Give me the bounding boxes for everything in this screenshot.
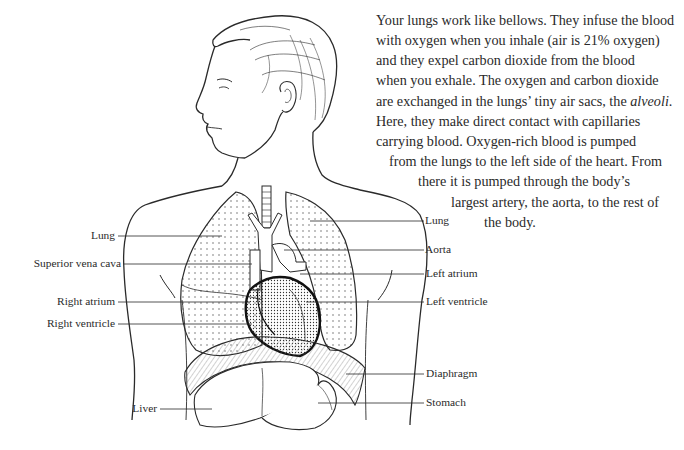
label-lung-left: Lung	[91, 229, 115, 242]
label-lung-right: Lung	[425, 214, 449, 227]
alveoli-term: alveoli	[630, 93, 669, 109]
head-drawing	[196, 16, 360, 190]
paragraph-line: largest artery, the aorta, to the rest o…	[451, 192, 659, 212]
paragraph-line: Your lungs work like bellows. They infus…	[376, 10, 674, 30]
label-left-atrium: Left atrium	[426, 267, 478, 280]
label-left-ventricle: Left ventricle	[426, 295, 488, 308]
paragraph-line: with oxygen when you inhale (air is 21% …	[376, 30, 660, 50]
paragraph-punctuation: .	[669, 93, 673, 109]
label-right-atrium: Right atrium	[57, 295, 115, 308]
label-right-ventricle: Right ventricle	[47, 317, 115, 330]
label-superior-vena-cava: Superior vena cava	[34, 257, 121, 270]
paragraph-line: and they expel carbon dioxide from the b…	[376, 50, 635, 70]
paragraph-line: there it is pumped through the body’s	[418, 171, 630, 191]
paragraph-line: from the lungs to the left side of the h…	[389, 151, 662, 171]
label-aorta: Aorta	[425, 243, 451, 256]
label-liver: Liver	[132, 402, 157, 415]
paragraph-line-text: are exchanged in the lungs’ tiny air sac…	[376, 93, 630, 109]
paragraph-line: carrying blood. Oxygen-rich blood is pum…	[376, 131, 636, 151]
label-stomach: Stomach	[426, 396, 466, 409]
paragraph-line: the body.	[484, 212, 536, 232]
paragraph-line: are exchanged in the lungs’ tiny air sac…	[376, 91, 672, 111]
label-diaphragm: Diaphragm	[426, 367, 477, 380]
paragraph-line: Here, they make direct contact with capi…	[376, 111, 640, 131]
paragraph-line: when you exhale. The oxygen and carbon d…	[376, 70, 659, 90]
